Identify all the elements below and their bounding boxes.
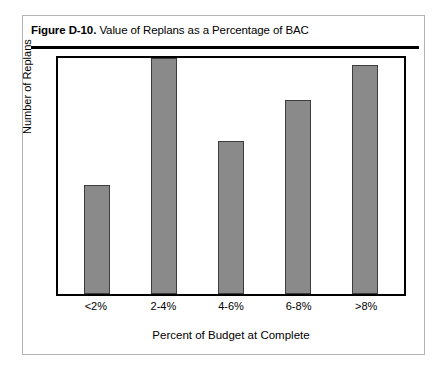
plot-frame xyxy=(56,56,406,296)
figure-number: Figure D-10. xyxy=(31,24,96,36)
x-axis-tick-label: >8% xyxy=(353,300,379,312)
bar xyxy=(151,58,177,294)
y-axis-title: Number of Replans xyxy=(21,0,33,134)
bar xyxy=(285,100,311,294)
figure-caption: Figure D-10. Value of Replans as a Perce… xyxy=(31,24,419,36)
x-axis-tick-label: 2-4% xyxy=(150,300,176,312)
figure-caption-text: Value of Replans as a Percentage of BAC xyxy=(99,24,308,36)
x-axis-tick-label: <2% xyxy=(83,300,109,312)
bar xyxy=(352,65,378,294)
bar xyxy=(218,141,244,294)
bar-series xyxy=(58,58,404,294)
caption-divider xyxy=(31,46,419,49)
x-axis-title: Percent of Budget at Complete xyxy=(56,329,406,341)
bar xyxy=(84,185,110,294)
x-axis-tick-label: 6-8% xyxy=(286,300,312,312)
x-axis-tick-labels: <2%2-4%4-6%6-8%>8% xyxy=(56,300,406,312)
figure-card: Figure D-10. Value of Replans as a Perce… xyxy=(22,15,425,355)
x-axis-tick-label: 4-6% xyxy=(218,300,244,312)
